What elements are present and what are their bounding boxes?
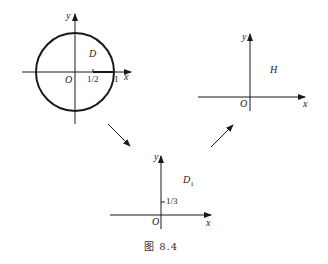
disk-region-label: D xyxy=(89,49,96,59)
quarter-plane-panel xyxy=(110,156,211,229)
disk-tick-one-label: 1 xyxy=(114,75,119,84)
quarter-tick-third-label: 1/3 xyxy=(166,197,178,206)
quarter-origin-label: O xyxy=(152,217,159,227)
disk-panel xyxy=(22,14,131,124)
figure-8-4: y D O 1/2 1 x y H O x y D1 1/3 O x 图 8.4 xyxy=(0,0,328,264)
half-plane-origin-label: O xyxy=(240,99,247,109)
half-plane-panel xyxy=(198,34,305,111)
arrow-disk-to-quarter xyxy=(108,124,130,146)
arrow-quarter-to-half xyxy=(211,125,233,147)
quarter-x-label: x xyxy=(206,218,210,228)
quarter-y-label: y xyxy=(154,152,158,162)
half-plane-region-label: H xyxy=(270,65,277,75)
quarter-region-label: D1 xyxy=(183,175,194,188)
quarter-region-subscript: 1 xyxy=(190,180,194,188)
half-plane-x-label: x xyxy=(303,99,307,109)
disk-x-label: x xyxy=(124,72,128,82)
figure-caption: 图 8.4 xyxy=(144,238,178,253)
disk-y-label: y xyxy=(66,11,70,21)
diagram-graphics xyxy=(0,0,328,264)
half-plane-y-label: y xyxy=(242,32,246,42)
disk-origin-label: O xyxy=(65,75,72,85)
disk-tick-half-label: 1/2 xyxy=(87,75,99,84)
